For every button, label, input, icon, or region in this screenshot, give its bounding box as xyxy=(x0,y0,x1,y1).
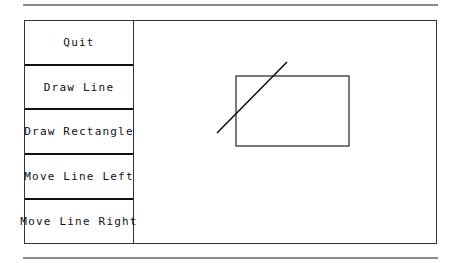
move-line-right-button[interactable]: Move Line Right xyxy=(25,198,133,243)
move-line-right-button-label: Move Line Right xyxy=(20,215,137,228)
drawn-rectangle xyxy=(236,76,349,146)
app-frame: Quit Draw Line Draw Rectangle Move Line … xyxy=(24,20,437,244)
move-line-left-button[interactable]: Move Line Left xyxy=(25,153,133,198)
draw-line-button-label: Draw Line xyxy=(44,81,114,94)
bottom-divider xyxy=(23,257,438,259)
draw-rectangle-button-label: Draw Rectangle xyxy=(24,125,134,138)
draw-rectangle-button[interactable]: Draw Rectangle xyxy=(25,108,133,153)
canvas-drawing xyxy=(134,21,438,243)
quit-button[interactable]: Quit xyxy=(25,21,133,64)
move-line-left-button-label: Move Line Left xyxy=(24,170,134,183)
button-panel: Quit Draw Line Draw Rectangle Move Line … xyxy=(25,21,134,243)
quit-button-label: Quit xyxy=(63,36,94,49)
drawing-canvas[interactable] xyxy=(134,21,436,243)
top-divider xyxy=(23,4,438,6)
drawn-line xyxy=(217,62,287,133)
draw-line-button[interactable]: Draw Line xyxy=(25,64,133,108)
